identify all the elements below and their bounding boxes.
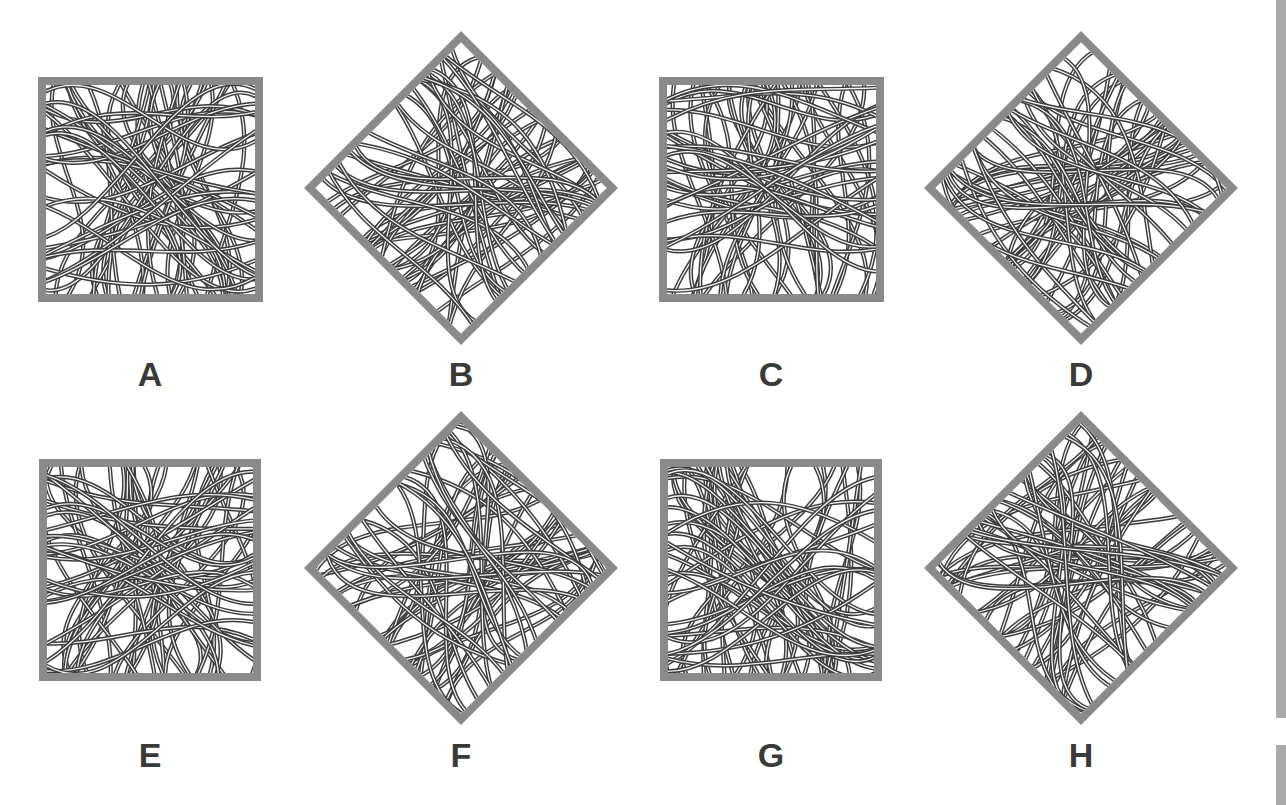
tangled-lines-figure <box>39 459 261 681</box>
option-label-b: B <box>421 354 501 394</box>
tangled-lines-figure <box>302 409 620 727</box>
option-panel-e[interactable] <box>39 459 261 681</box>
tangled-lines-figure <box>922 409 1240 727</box>
option-label-g: G <box>731 735 811 775</box>
tangled-lines-figure <box>660 459 882 681</box>
tangled-lines-figure <box>922 29 1240 347</box>
option-label-e: E <box>110 735 190 775</box>
scrollbar-track-lower[interactable] <box>1276 745 1286 805</box>
option-label-c: C <box>731 354 811 394</box>
tangled-lines-figure <box>302 29 620 347</box>
option-panel-a[interactable] <box>38 77 263 302</box>
option-label-f: F <box>421 735 501 775</box>
option-panel-d[interactable] <box>922 29 1240 347</box>
option-panel-g[interactable] <box>660 459 882 681</box>
option-label-d: D <box>1041 354 1121 394</box>
scrollbar-track-upper[interactable] <box>1276 0 1286 718</box>
option-panel-f[interactable] <box>302 409 620 727</box>
option-panel-c[interactable] <box>659 77 884 302</box>
option-panel-b[interactable] <box>302 29 620 347</box>
tangled-lines-figure <box>38 77 263 302</box>
option-panel-h[interactable] <box>922 409 1240 727</box>
option-label-h: H <box>1041 735 1121 775</box>
tangled-lines-figure <box>659 77 884 302</box>
option-label-a: A <box>110 354 190 394</box>
